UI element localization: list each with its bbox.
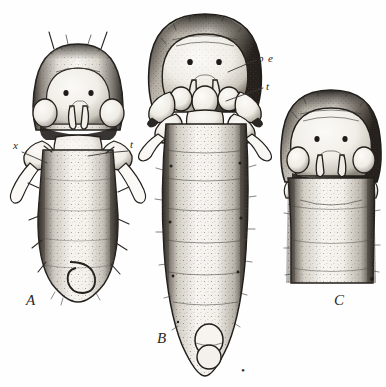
figure-c-mandible-left xyxy=(316,155,324,177)
figure-a-mandible-right xyxy=(81,106,89,129)
figure-b-anal-lobe-lower xyxy=(197,345,221,369)
figure-a-ocellus-left xyxy=(63,90,68,96)
figure-a-maxillary-lobe-right xyxy=(100,99,124,127)
figure-a-maxillary-lobe-left xyxy=(33,99,57,127)
figure-b-ocellus-left xyxy=(187,59,193,65)
figure-c-ocellus-right xyxy=(342,136,347,142)
figure-c-maxillary-lobe-right xyxy=(353,147,375,173)
figure-label-b: B xyxy=(157,330,166,346)
annotation-label-x: x xyxy=(12,139,18,151)
plate-canvas: A x t xyxy=(0,0,386,387)
figure-c-spiracle xyxy=(370,277,374,281)
figure-label-a: A xyxy=(25,292,36,308)
figure-label-c: C xyxy=(334,292,345,308)
illustration-plate: A x t xyxy=(0,0,386,387)
figure-c-trunk-texture xyxy=(284,176,380,286)
annotation-label-p: p xyxy=(257,52,264,64)
figure-b-ocellus-right xyxy=(216,59,222,65)
figure-c-mandible-right xyxy=(338,155,346,177)
figure-a-ocellus-right xyxy=(88,90,93,96)
figure-c-ocellus-left xyxy=(314,136,319,142)
figure-c-maxillary-lobe-left xyxy=(287,147,309,173)
annotation-label-e: e xyxy=(268,52,273,64)
figure-c: C xyxy=(278,86,386,308)
stray-mark-below-figure-b: • xyxy=(241,364,245,376)
figure-a-mandible-left xyxy=(69,106,77,129)
